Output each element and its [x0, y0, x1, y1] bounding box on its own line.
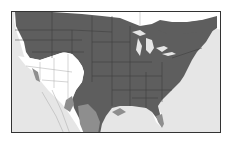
range-map: [12, 12, 221, 133]
map-frame: [11, 11, 221, 133]
